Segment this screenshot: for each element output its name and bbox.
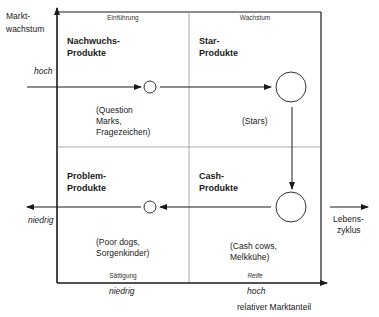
question-mark-circle xyxy=(144,81,156,93)
question-marks-desc-line1: (Question xyxy=(96,105,133,116)
cash-title-line1: Cash- xyxy=(199,170,224,182)
stars-title-line1: Star- xyxy=(199,35,220,47)
question-marks-title-line2: Produkte xyxy=(67,47,106,59)
cash-desc-line2: Melkkühe) xyxy=(230,252,269,263)
bcg-matrix-diagram: Markt- wachstum hoch niedrig niedrig hoc… xyxy=(0,0,379,317)
problem-title-line2: Produkte xyxy=(67,182,106,194)
lifecycle-label-line2: zyklus xyxy=(337,225,361,236)
question-marks-desc-line2: Marks, xyxy=(96,116,122,127)
phase-introduction: Einführung xyxy=(73,14,173,22)
x-high-label: hoch xyxy=(247,286,265,297)
poor-dog-circle xyxy=(144,201,156,213)
problem-desc-line2: Sorgenkinder) xyxy=(96,248,149,259)
cash-cow-circle xyxy=(276,192,306,222)
problem-desc-line1: (Poor dogs, xyxy=(96,237,140,248)
x-axis-label: relativer Marktanteil xyxy=(237,302,311,313)
lifecycle-label-line1: Lebens- xyxy=(333,214,364,225)
cash-desc-line1: (Cash cows, xyxy=(230,241,277,252)
y-low-label: niedrig xyxy=(28,215,54,226)
phase-growth: Wachstum xyxy=(205,14,305,22)
x-low-label: niedrig xyxy=(109,286,135,297)
question-marks-desc-line3: Fragezeichen) xyxy=(96,127,150,138)
phase-saturation: Sättigung xyxy=(73,272,173,280)
y-axis-label-line2: wachstum xyxy=(6,24,44,35)
problem-title-line1: Problem- xyxy=(67,170,106,182)
question-marks-title-line1: Nachwuchs- xyxy=(67,35,120,47)
star-circle xyxy=(276,72,306,102)
y-high-label: hoch xyxy=(34,66,52,77)
diagram-lines xyxy=(0,0,379,317)
stars-title-line2: Produkte xyxy=(199,47,238,59)
phase-maturity: Reife xyxy=(205,272,305,280)
stars-desc: (Stars) xyxy=(242,116,268,127)
cash-title-line2: Produkte xyxy=(199,182,238,194)
y-axis-label-line1: Markt- xyxy=(6,11,30,22)
